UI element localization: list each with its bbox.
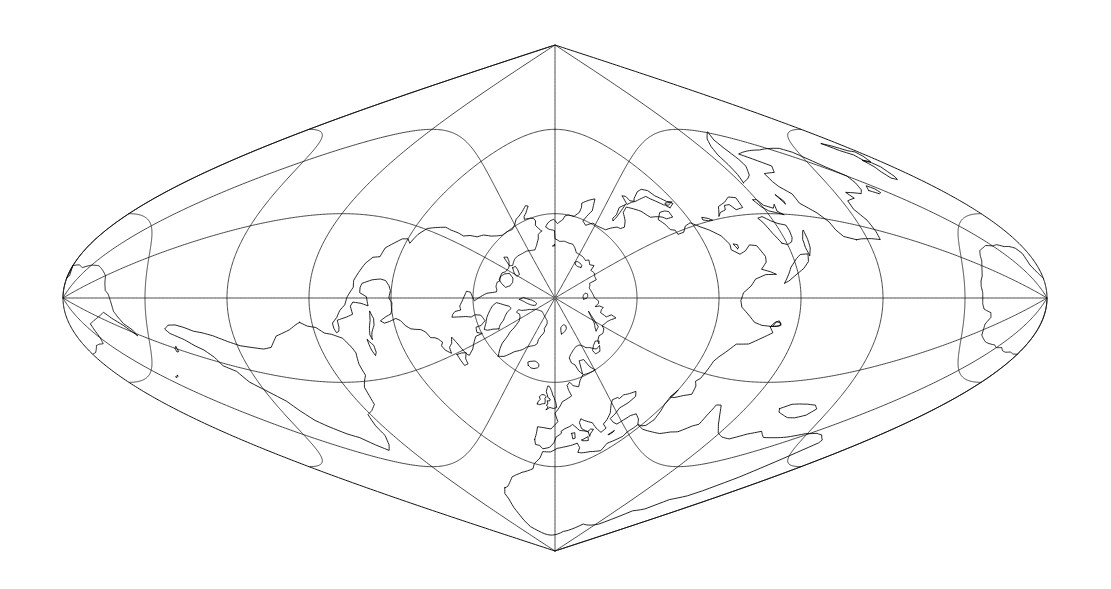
map-canvas [0,0,1111,589]
world-map-figure: World map — transverse sinusoidal (Sanso… [0,0,1111,589]
map-background [0,0,1111,589]
